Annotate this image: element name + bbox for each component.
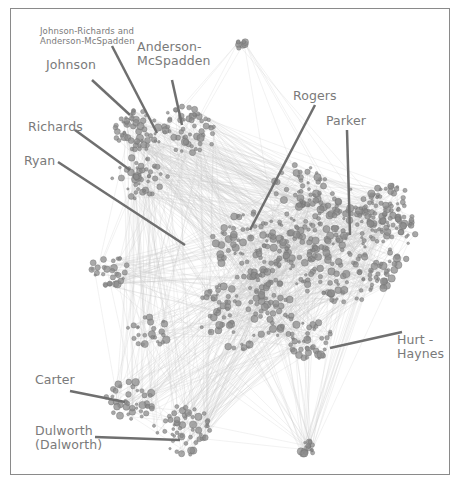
leader-johnson bbox=[92, 80, 130, 115]
label-line: Haynes bbox=[397, 347, 444, 361]
label-rogers: Rogers bbox=[293, 89, 337, 103]
label-line: (Dalworth) bbox=[35, 438, 102, 452]
label-line: Anderson- bbox=[137, 40, 211, 54]
label-line: Anderson-McSpadden bbox=[40, 37, 135, 47]
leader-dulworth bbox=[95, 437, 180, 440]
label-hurt-haynes: Hurt - Haynes bbox=[397, 333, 444, 362]
label-line: Hurt - bbox=[397, 333, 444, 347]
label-anderson-mcspadden: Anderson- McSpadden bbox=[137, 40, 211, 69]
label-richards: Richards bbox=[28, 120, 83, 134]
label-parker: Parker bbox=[326, 114, 366, 128]
leader-anderson bbox=[172, 80, 182, 125]
label-carter: Carter bbox=[35, 373, 75, 387]
label-ryan: Ryan bbox=[24, 154, 55, 168]
label-line: Dulworth bbox=[35, 424, 102, 438]
label-johnson-richards: Johnson-Richards and Anderson-McSpadden bbox=[40, 27, 135, 47]
network-graph bbox=[0, 0, 457, 483]
edges bbox=[92, 42, 416, 455]
label-line: McSpadden bbox=[137, 54, 211, 68]
label-johnson: Johnson bbox=[46, 58, 96, 72]
label-dulworth: Dulworth (Dalworth) bbox=[35, 424, 102, 453]
